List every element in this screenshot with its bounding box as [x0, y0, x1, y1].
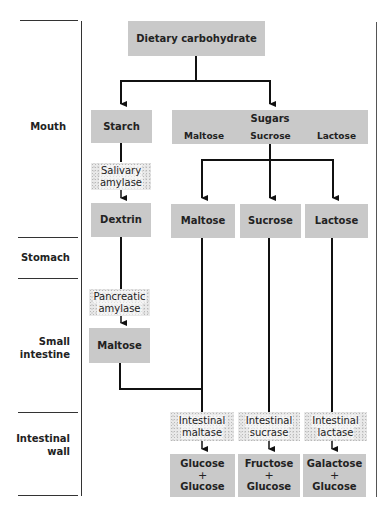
node-dietary-carbohydrate-label: Dietary carbohydrate	[136, 33, 257, 45]
node-lactose: Lactose	[305, 204, 368, 238]
node-maltose-label: Maltose	[181, 215, 226, 227]
plus-icon: +	[264, 470, 273, 481]
node-maltose-small-intestine-label: Maltose	[97, 340, 142, 352]
plus-icon: +	[330, 470, 339, 481]
product-fructose-glucose: Fructose + Glucose	[238, 454, 300, 497]
enzyme-intestinal-maltase-line1: Intestinal	[178, 415, 227, 427]
enzyme-salivary-amylase-line1: Salivary	[100, 165, 142, 177]
node-starch: Starch	[91, 110, 152, 143]
enzyme-intestinal-lactase-line2: lactase	[317, 427, 355, 439]
product-3-b: Glucose	[312, 481, 356, 493]
sugars-item-lactose: Lactose	[317, 130, 356, 142]
node-dextrin-label: Dextrin	[100, 214, 142, 226]
plus-icon: +	[198, 470, 207, 481]
enzyme-intestinal-lactase: Intestinal lactase	[304, 412, 367, 441]
product-2-b: Glucose	[247, 481, 291, 493]
node-maltose: Maltose	[171, 204, 235, 238]
node-dietary-carbohydrate: Dietary carbohydrate	[128, 21, 265, 56]
node-dextrin: Dextrin	[91, 203, 151, 237]
product-1-b: Glucose	[180, 481, 224, 493]
node-sucrose: Sucrose	[240, 204, 301, 238]
enzyme-intestinal-sucrase-line1: Intestinal	[245, 415, 294, 427]
enzyme-pancreatic-amylase-line2: amylase	[97, 303, 141, 315]
sugars-item-maltose: Maltose	[184, 130, 224, 142]
enzyme-pancreatic-amylase-line1: Pancreatic	[93, 291, 147, 303]
enzyme-salivary-amylase: Salivary amylase	[91, 163, 151, 190]
enzyme-intestinal-sucrase-line2: sucrase	[249, 427, 290, 439]
product-galactose-glucose: Galactose + Glucose	[303, 454, 366, 497]
enzyme-intestinal-maltase: Intestinal maltase	[170, 412, 234, 441]
node-maltose-small-intestine: Maltose	[89, 328, 150, 363]
enzyme-intestinal-sucrase: Intestinal sucrase	[238, 412, 300, 441]
enzyme-intestinal-lactase-line1: Intestinal	[311, 415, 360, 427]
node-sucrose-label: Sucrose	[248, 215, 293, 227]
node-lactose-label: Lactose	[315, 215, 358, 227]
node-starch-label: Starch	[103, 121, 140, 133]
node-sugars-items: Maltose Sucrose Lactose	[172, 130, 368, 142]
enzyme-salivary-amylase-line2: amylase	[99, 177, 143, 189]
sugars-item-sucrose: Sucrose	[250, 130, 290, 142]
product-glucose-glucose: Glucose + Glucose	[170, 454, 235, 497]
node-sugars: Sugars Maltose Sucrose Lactose	[172, 110, 368, 144]
node-sugars-title: Sugars	[250, 113, 289, 125]
enzyme-pancreatic-amylase: Pancreatic amylase	[89, 289, 150, 316]
enzyme-intestinal-maltase-line2: maltase	[181, 427, 223, 439]
